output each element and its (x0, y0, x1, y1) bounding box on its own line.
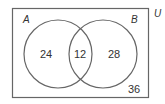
set-a-label: A (22, 14, 30, 25)
a-only-value: 24 (40, 48, 52, 60)
venn-diagram: U A B 24 12 28 36 (0, 0, 165, 104)
b-only-value: 28 (108, 48, 120, 60)
intersection-value: 12 (74, 48, 86, 60)
outside-value: 36 (128, 83, 140, 95)
universe-label: U (154, 8, 162, 19)
set-b-label: B (131, 14, 138, 25)
